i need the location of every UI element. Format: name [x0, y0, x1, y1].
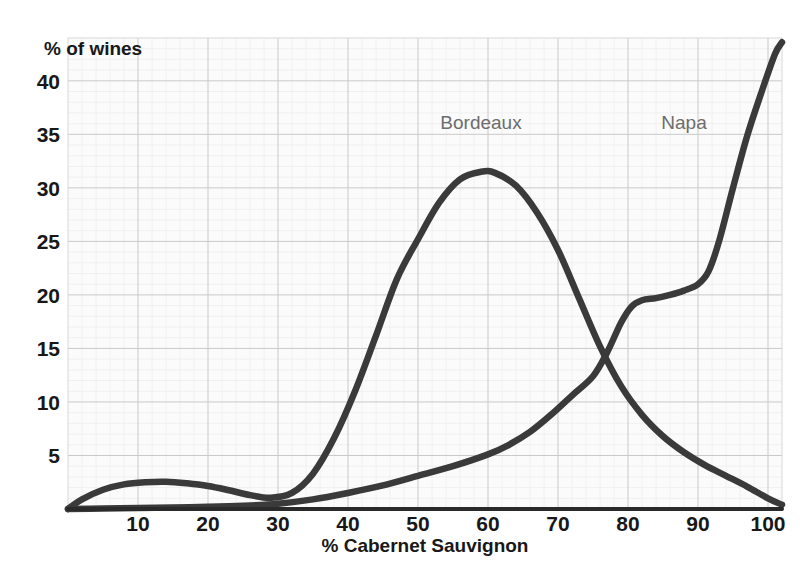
series-annotation-bordeaux: Bordeaux [440, 112, 522, 133]
x-tick-label: 50 [406, 512, 429, 535]
x-tick-label: 100 [750, 512, 785, 535]
x-axis-title: % Cabernet Sauvignon [322, 535, 529, 556]
y-tick-label: 15 [37, 337, 61, 360]
x-tick-label: 40 [336, 512, 359, 535]
y-tick-label: 10 [37, 391, 60, 414]
x-tick-label: 10 [126, 512, 149, 535]
chart-container: 510152025303540 102030405060708090100 Bo… [0, 0, 805, 577]
y-tick-label: 40 [37, 70, 60, 93]
y-tick-label: 30 [37, 177, 60, 200]
y-tick-label: 25 [37, 230, 61, 253]
x-tick-label: 70 [546, 512, 569, 535]
y-axis-title: % of wines [44, 38, 142, 59]
y-axis-tick-labels: 510152025303540 [37, 70, 61, 468]
y-tick-label: 20 [37, 284, 60, 307]
y-tick-label: 5 [48, 444, 60, 467]
x-tick-label: 90 [686, 512, 709, 535]
x-tick-label: 20 [196, 512, 219, 535]
series-annotation-napa: Napa [661, 112, 707, 133]
wine-distribution-chart: 510152025303540 102030405060708090100 Bo… [0, 0, 805, 577]
x-axis-tick-labels: 102030405060708090100 [126, 512, 785, 535]
y-tick-label: 35 [37, 123, 61, 146]
x-tick-label: 60 [476, 512, 499, 535]
x-tick-label: 80 [616, 512, 639, 535]
x-tick-label: 30 [266, 512, 289, 535]
